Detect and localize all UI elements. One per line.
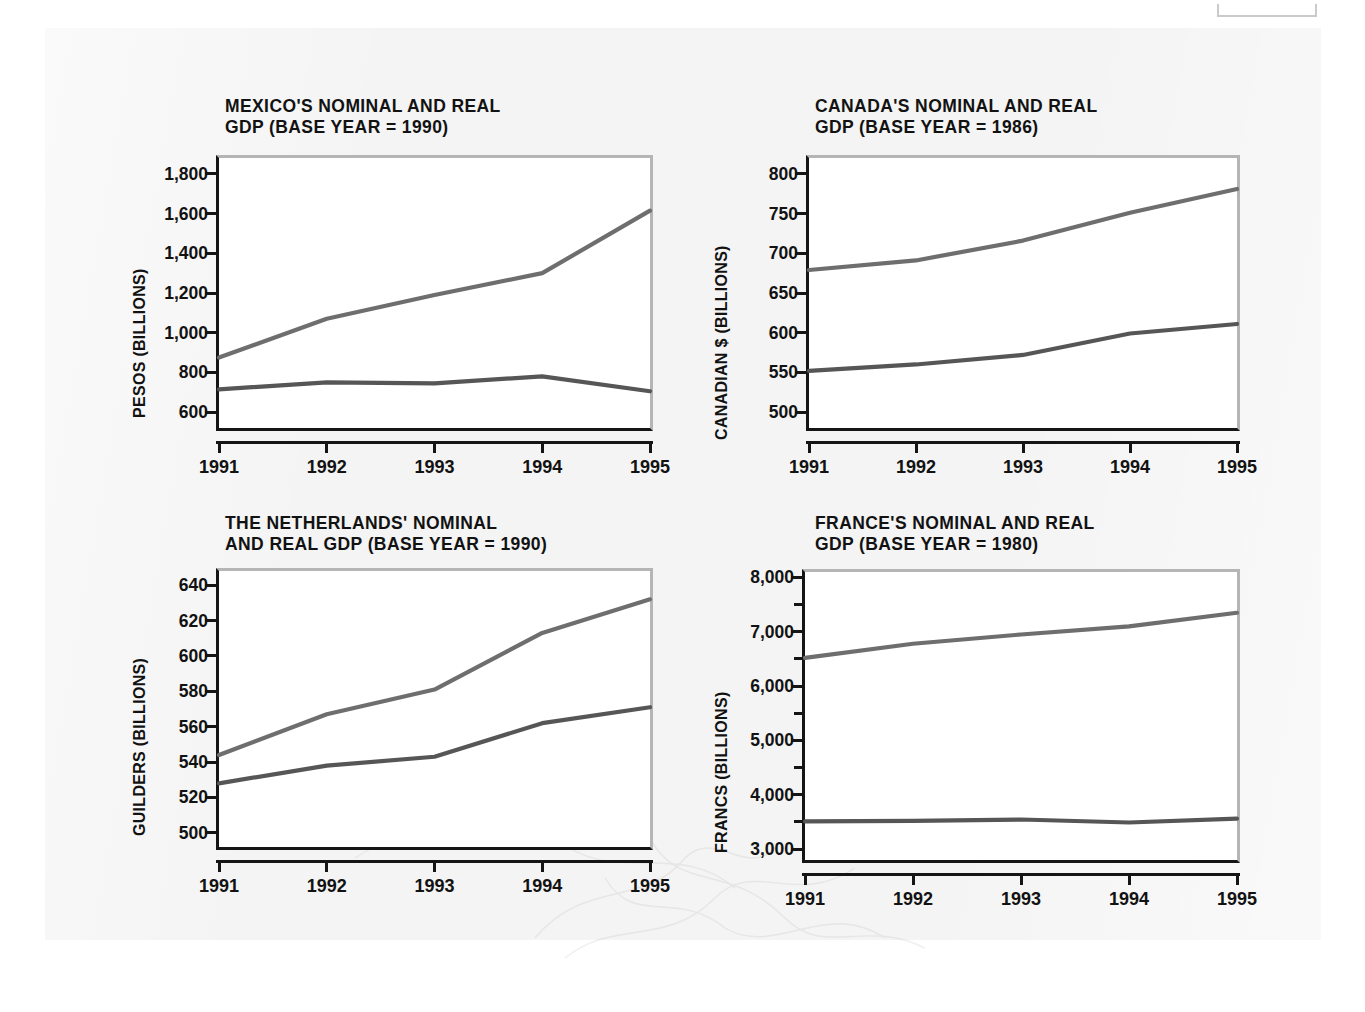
series-line-real <box>805 819 1237 823</box>
x-tick-mark <box>1020 873 1023 885</box>
series-line-real <box>219 376 650 391</box>
x-tick-label: 1991 <box>785 889 825 910</box>
x-tick-label: 1995 <box>630 876 670 897</box>
x-tick-mark <box>218 860 221 872</box>
y-tick-mark-minor <box>794 657 802 660</box>
x-tick-mark <box>912 873 915 885</box>
y-tick-label: 4,000 <box>690 784 794 805</box>
y-tick-label: 620 <box>0 610 208 631</box>
y-tick-mark-minor <box>794 712 802 715</box>
plot-lines-netherlands <box>219 571 650 847</box>
plot-area-canada <box>806 155 1240 431</box>
series-line-nominal <box>809 189 1237 270</box>
y-tick-label: 600 <box>0 645 208 666</box>
plot-lines-canada <box>809 158 1237 428</box>
y-tick-label: 750 <box>690 203 798 224</box>
x-tick-label: 1993 <box>414 876 454 897</box>
x-tick-mark <box>1236 873 1239 885</box>
series-line-nominal <box>805 613 1237 658</box>
x-tick-mark <box>433 860 436 872</box>
y-tick-label: 560 <box>0 716 208 737</box>
plot-area-france <box>802 569 1240 863</box>
chart-netherlands: THE NETHERLANDS' NOMINAL AND REAL GDP (B… <box>0 408 690 908</box>
x-tick-mark <box>1128 873 1131 885</box>
plot-lines-mexico <box>219 158 650 428</box>
y-tick-mark-minor <box>794 603 802 606</box>
x-tick-label: 1994 <box>1109 889 1149 910</box>
y-tick-mark-minor <box>794 820 802 823</box>
y-tick-label: 800 <box>0 362 208 383</box>
y-tick-label: 520 <box>0 787 208 808</box>
x-tick-label: 1992 <box>307 876 347 897</box>
y-tick-label: 640 <box>0 575 208 596</box>
y-tick-mark-minor <box>794 766 802 769</box>
y-tick-label: 1,000 <box>0 322 208 343</box>
x-tick-label: 1994 <box>522 876 562 897</box>
series-line-nominal <box>219 599 650 755</box>
y-tick-label: 1,800 <box>0 163 208 184</box>
chart-france: FRANCE'S NOMINAL AND REAL GDP (BASE YEAR… <box>690 408 1365 908</box>
plot-area-netherlands <box>216 568 653 850</box>
x-tick-label: 1995 <box>1217 889 1257 910</box>
x-tick-label: 1993 <box>1001 889 1041 910</box>
chart-title-france: FRANCE'S NOMINAL AND REAL GDP (BASE YEAR… <box>815 513 1245 555</box>
series-line-real <box>219 707 650 783</box>
y-tick-label: 1,600 <box>0 203 208 224</box>
series-line-real <box>809 324 1237 371</box>
y-axis-label-france: FRANCS (BILLIONS) <box>713 691 731 853</box>
figure-page: MEXICO'S NOMINAL AND REAL GDP (BASE YEAR… <box>0 0 1365 1012</box>
chart-title-mexico: MEXICO'S NOMINAL AND REAL GDP (BASE YEAR… <box>225 96 655 138</box>
x-tick-mark <box>804 873 807 885</box>
plot-area-mexico <box>216 155 653 431</box>
x-tick-mark <box>541 860 544 872</box>
y-tick-label: 540 <box>0 752 208 773</box>
y-tick-label: 580 <box>0 681 208 702</box>
plot-lines-france <box>805 572 1237 860</box>
x-tick-mark <box>649 860 652 872</box>
x-tick-label: 1992 <box>893 889 933 910</box>
y-tick-label: 6,000 <box>690 676 794 697</box>
y-tick-label: 600 <box>690 322 798 343</box>
y-tick-label: 700 <box>690 243 798 264</box>
y-tick-label: 500 <box>0 822 208 843</box>
y-tick-label: 550 <box>690 362 798 383</box>
chart-title-canada: CANADA'S NOMINAL AND REAL GDP (BASE YEAR… <box>815 96 1245 138</box>
x-tick-label: 1991 <box>199 876 239 897</box>
y-tick-label: 800 <box>690 163 798 184</box>
y-tick-label: 1,400 <box>0 243 208 264</box>
y-tick-label: 1,200 <box>0 283 208 304</box>
x-tick-mark <box>325 860 328 872</box>
y-tick-label: 8,000 <box>690 567 794 588</box>
series-line-nominal <box>219 211 650 358</box>
y-tick-label: 5,000 <box>690 730 794 751</box>
y-tick-label: 650 <box>690 283 798 304</box>
chart-title-netherlands: THE NETHERLANDS' NOMINAL AND REAL GDP (B… <box>225 513 665 555</box>
y-tick-label: 7,000 <box>690 621 794 642</box>
y-tick-label: 3,000 <box>690 839 794 860</box>
